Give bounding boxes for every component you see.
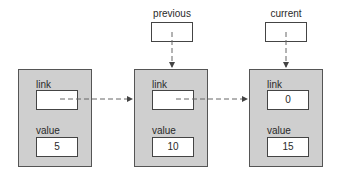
- pointer-arrows: [0, 0, 341, 179]
